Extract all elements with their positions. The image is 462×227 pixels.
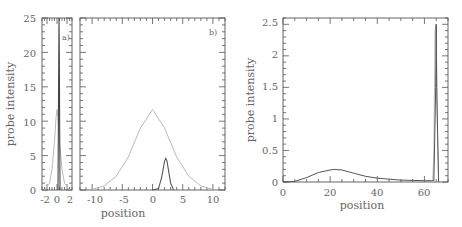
panel-b-ticks (80, 18, 225, 190)
chart-figure: 0 5 10 15 20 25 -2 0 2 a) probe intensit… (0, 0, 462, 227)
panel-c-dark-series (283, 24, 439, 182)
y-tick-label: 20 (23, 48, 36, 59)
y-tick-label: 5 (30, 151, 36, 162)
panel-a-label: a) (62, 33, 70, 42)
panel-c-frame (283, 18, 448, 182)
x-tick-label: 5 (180, 194, 186, 205)
x-tick-label: 0 (280, 187, 286, 198)
y-tick-label: 15 (23, 82, 36, 93)
panel-b-frame (80, 18, 225, 190)
panel-a-y-tick-labels: 0 5 10 15 20 25 (23, 13, 36, 196)
panel-b-label: b) (209, 28, 217, 37)
x-tick-label: -10 (87, 194, 103, 205)
panel-a-frame (42, 18, 72, 190)
y-tick-label: 2.5 (262, 17, 278, 28)
panel-a-ticks (42, 18, 72, 190)
y-tick-label: 1.5 (262, 81, 278, 92)
panel-c-ticks (283, 18, 448, 182)
panel-a-wide-series (45, 110, 70, 191)
y-tick-label: 25 (23, 13, 36, 24)
x-tick-label: 0 (54, 194, 60, 205)
y-tick-label: 10 (23, 117, 36, 128)
x-tick-label: 20 (324, 187, 337, 198)
x-tick-label: 60 (418, 187, 431, 198)
y-tick-label: 2 (272, 49, 278, 60)
y-axis-label-right: probe intensity (244, 57, 257, 142)
x-tick-label: 10 (207, 194, 220, 205)
panel-c: 0 0.5 1 1.5 2 2.5 0 20 40 60 position (262, 17, 448, 212)
panel-b: -10 -5 0 5 10 b) position (80, 18, 225, 220)
x-tick-label: -5 (119, 194, 129, 205)
x-tick-label: 2 (67, 194, 73, 205)
x-tick-label: -2 (40, 194, 50, 205)
x-tick-label: 40 (371, 187, 384, 198)
y-tick-label: 1 (272, 113, 278, 124)
panel-a: 0 5 10 15 20 25 -2 0 2 a) (23, 13, 73, 205)
y-axis-label-left: probe intensity (4, 61, 17, 146)
y-tick-label: 0 (30, 185, 36, 196)
y-tick-label: 0.5 (262, 145, 278, 156)
panel-b-wide-series (92, 110, 213, 190)
x-axis-label-right: position (340, 199, 384, 212)
x-axis-label-middle: position (101, 207, 145, 220)
panel-b-narrow-series (153, 158, 174, 190)
x-tick-label: 0 (150, 194, 156, 205)
y-tick-label: 0 (272, 177, 278, 188)
panel-a-narrow-series (58, 18, 60, 190)
